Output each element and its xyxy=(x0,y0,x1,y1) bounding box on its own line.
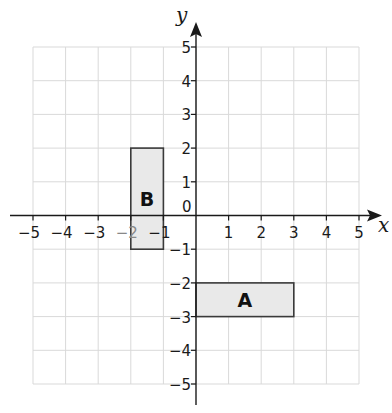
x-tick-label: −4 xyxy=(51,224,73,242)
y-tick-label: −3 xyxy=(169,309,191,327)
x-tick-label: −3 xyxy=(83,224,105,242)
y-tick-label: 2 xyxy=(181,140,191,158)
x-tick-label: −5 xyxy=(18,224,40,242)
origin-label: 0 xyxy=(182,198,192,216)
x-tick-label: 1 xyxy=(224,224,234,242)
y-tick-label: −5 xyxy=(169,376,191,394)
axis-ticks: −5−4−3−2−11234554321−1−2−3−4−5 xyxy=(18,39,364,394)
y-tick-label: −4 xyxy=(169,342,191,360)
y-tick-label: 1 xyxy=(181,174,191,192)
y-tick-label: −2 xyxy=(169,275,191,293)
rectangle-b-label: B xyxy=(140,188,154,210)
rectangle-a-label: A xyxy=(238,289,253,311)
x-tick-label: −2 xyxy=(116,224,138,242)
x-tick-label: 3 xyxy=(289,224,299,242)
x-tick-label: 4 xyxy=(322,224,332,242)
x-tick-label: 2 xyxy=(256,224,266,242)
y-tick-label: 4 xyxy=(181,73,191,91)
y-tick-label: −1 xyxy=(169,241,191,259)
x-axis-label: x xyxy=(378,213,389,237)
y-axis-label: y xyxy=(175,3,188,27)
x-tick-label: 5 xyxy=(354,224,364,242)
y-tick-label: 3 xyxy=(181,106,191,124)
x-tick-label: −1 xyxy=(148,224,170,242)
y-tick-label: 5 xyxy=(181,39,191,57)
coordinate-plane: AB x y −5−4−3−2−11234554321−1−2−3−4−5 0 xyxy=(0,0,392,413)
